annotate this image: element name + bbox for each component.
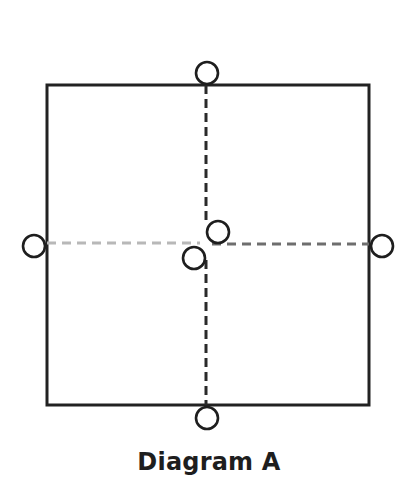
center-lower-left-circle <box>183 247 205 269</box>
bottom-circle <box>196 407 218 429</box>
left-circle <box>23 235 45 257</box>
diagram-canvas <box>0 0 418 490</box>
center-upper-right-circle <box>207 221 229 243</box>
right-circle <box>371 235 393 257</box>
diagram-caption: Diagram A <box>0 448 418 476</box>
top-circle <box>196 62 218 84</box>
